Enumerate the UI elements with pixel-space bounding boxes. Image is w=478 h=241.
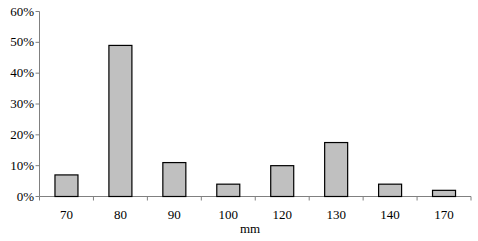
bar-120	[271, 166, 294, 197]
x-tick-label: 70	[39, 208, 93, 222]
x-tick-label: 80	[93, 208, 147, 222]
y-tick-label: 10%	[0, 159, 34, 173]
y-tick-label: 30%	[0, 97, 34, 111]
y-tick-label: 40%	[0, 66, 34, 80]
bar-70	[55, 175, 78, 197]
y-tick-label: 20%	[0, 128, 34, 142]
bar-170	[433, 190, 456, 196]
y-tick-label: 50%	[0, 35, 34, 49]
bar-140	[379, 184, 402, 196]
bar-130	[325, 143, 348, 197]
x-axis-title: mm	[225, 222, 275, 236]
bar-80	[109, 45, 132, 196]
x-tick-label: 130	[309, 208, 363, 222]
x-tick-label: 90	[147, 208, 201, 222]
x-tick-label: 140	[363, 208, 417, 222]
bar-90	[163, 163, 186, 197]
y-tick-label: 60%	[0, 5, 34, 19]
bar-100	[217, 184, 240, 196]
x-tick-label: 120	[255, 208, 309, 222]
x-tick-label: 100	[201, 208, 255, 222]
plot-area	[0, 0, 478, 241]
y-tick-label: 0%	[0, 190, 34, 204]
bar-chart: 0%10%20%30%40%50%60% 7080901001201301401…	[0, 0, 478, 241]
x-tick-label: 170	[417, 208, 471, 222]
